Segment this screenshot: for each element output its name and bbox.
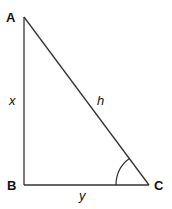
vertex-label-b: B (7, 178, 16, 193)
side-label-x: x (8, 93, 16, 108)
vertex-label-c: C (154, 178, 164, 193)
right-triangle-diagram: A B C x h y (0, 0, 172, 209)
side-ac-hypotenuse (24, 17, 149, 185)
angle-arc-c (116, 159, 129, 186)
vertex-label-a: A (6, 10, 16, 25)
side-label-y: y (78, 188, 87, 203)
side-label-h: h (97, 93, 104, 108)
